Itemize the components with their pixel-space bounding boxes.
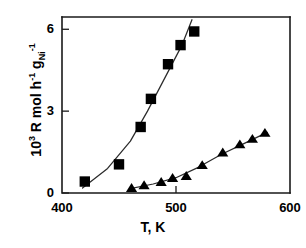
triangle-series-point-5 — [197, 160, 208, 169]
square-series-point-2 — [135, 122, 145, 132]
x-tick-label-400: 400 — [42, 200, 82, 215]
square-series-point-0 — [80, 176, 90, 186]
triangle-series-point-4 — [181, 171, 192, 180]
square-series-point-1 — [114, 159, 124, 169]
y-tick-label-6: 6 — [34, 21, 54, 36]
square-series-point-3 — [146, 94, 156, 104]
series-fit-lines — [83, 20, 268, 189]
triangle-series-point-9 — [259, 128, 270, 137]
y-tick-label-3: 3 — [34, 103, 54, 118]
square-series-point-6 — [189, 26, 199, 36]
triangle-series-point-8 — [247, 134, 258, 143]
square-series-point-5 — [175, 40, 185, 50]
triangle-series-point-2 — [156, 177, 167, 186]
y-tick-label-0: 0 — [34, 185, 54, 200]
triangle-series-fit-line — [130, 132, 267, 188]
chart-figure: 036 400500600 T, K 103 R mol h-1 gNi-1 1… — [0, 0, 306, 248]
x-axis-label: T, K — [0, 219, 306, 235]
y-axis-ticks — [62, 29, 69, 193]
x-tick-label-600: 600 — [270, 200, 306, 215]
x-tick-label-500: 500 — [156, 200, 196, 215]
square-series-point-4 — [163, 59, 173, 69]
